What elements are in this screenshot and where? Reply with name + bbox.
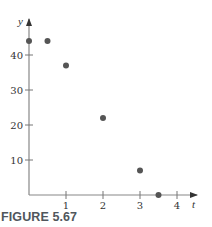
y-axis-label: y xyxy=(17,15,23,27)
scatter-chart: 1234 10203040 y t xyxy=(0,0,212,227)
data-point xyxy=(26,38,32,44)
y-tick-label: 40 xyxy=(10,50,23,61)
data-points xyxy=(26,38,162,198)
data-point xyxy=(100,115,106,121)
data-point xyxy=(45,38,51,44)
y-tick-label: 30 xyxy=(10,85,23,96)
x-ticks: 1234 xyxy=(63,191,180,211)
x-axis-label: t xyxy=(192,198,196,210)
x-tick-label: 3 xyxy=(137,200,143,211)
data-point xyxy=(156,192,162,198)
x-tick-label: 2 xyxy=(100,200,106,211)
y-tick-label: 10 xyxy=(10,155,23,166)
data-point xyxy=(63,63,69,69)
figure-caption: FIGURE 5.67 xyxy=(1,210,77,224)
x-tick: 4 xyxy=(174,191,180,211)
y-tick-label: 20 xyxy=(10,120,23,131)
data-point xyxy=(137,168,143,174)
axes xyxy=(29,19,197,195)
x-tick: 2 xyxy=(100,191,106,211)
x-tick: 1 xyxy=(63,191,69,211)
x-tick-label: 4 xyxy=(174,200,180,211)
x-tick: 3 xyxy=(137,191,143,211)
